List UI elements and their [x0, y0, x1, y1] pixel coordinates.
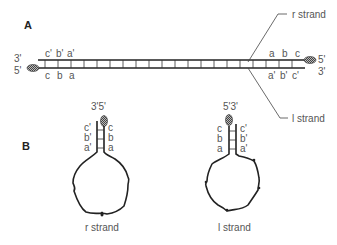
seq-left-bottom-c: c — [45, 70, 50, 81]
l-hairpin-end-cap-icon — [226, 115, 233, 126]
seq-left-bottom-b: b — [57, 70, 63, 81]
seq-right-bottom-b-prime: b' — [280, 70, 288, 81]
r-hairpin-ends-label: 3'5' — [91, 101, 106, 112]
l-strand-label: l strand — [292, 113, 325, 124]
r-hairpin-end-cap-icon — [101, 116, 108, 127]
seq-right-bottom-c-prime: c' — [292, 70, 299, 81]
r-strand-label: r strand — [292, 9, 326, 20]
l-hairpin-caption: l strand — [218, 222, 251, 233]
seq-right-top-a: a — [269, 48, 275, 59]
seq-right-top-c: c — [295, 48, 300, 59]
r-hairpin-left-a-prime: a' — [84, 142, 92, 153]
l-hairpin-strand — [206, 124, 260, 211]
seq-right-top-b: b — [282, 48, 288, 59]
seq-right-bottom-a-prime: a' — [268, 70, 276, 81]
seq-left-top-b-prime: b' — [56, 48, 64, 59]
seq-left-top-a-prime: a' — [67, 48, 75, 59]
left-top-end-label: 3' — [14, 53, 22, 64]
right-top-end-label: 5' — [318, 54, 326, 65]
r-hairpin-knot — [100, 211, 103, 216]
right-bottom-end-label: 3' — [318, 66, 326, 77]
left-end-cap-icon — [27, 65, 39, 72]
r-strand-hairpin: 3'5' c' b' a' c b a r strand — [73, 101, 129, 233]
base-pair-rungs — [45, 60, 292, 68]
seq-left-bottom-a: a — [69, 70, 75, 81]
right-end-cap-icon — [304, 57, 316, 64]
l-strand-hairpin: 5'3' c b a c' b' a' l strand — [205, 101, 261, 233]
seq-left-top-c-prime: c' — [45, 48, 52, 59]
r-hairpin-caption: r strand — [85, 222, 119, 233]
r-hairpin-strand — [73, 121, 129, 214]
panel-a-label: A — [24, 19, 32, 31]
l-hairpin-ends-label: 5'3' — [223, 101, 238, 112]
r-hairpin-right-a: a — [108, 142, 114, 153]
left-bottom-end-label: 5' — [14, 65, 22, 76]
panel-b-label: B — [22, 140, 30, 152]
dna-hairpin-diagram: A 3' 5' 5' 3' — [0, 0, 337, 245]
l-hairpin-left-a: a — [217, 143, 223, 154]
l-hairpin-right-a-prime: a' — [240, 143, 248, 154]
